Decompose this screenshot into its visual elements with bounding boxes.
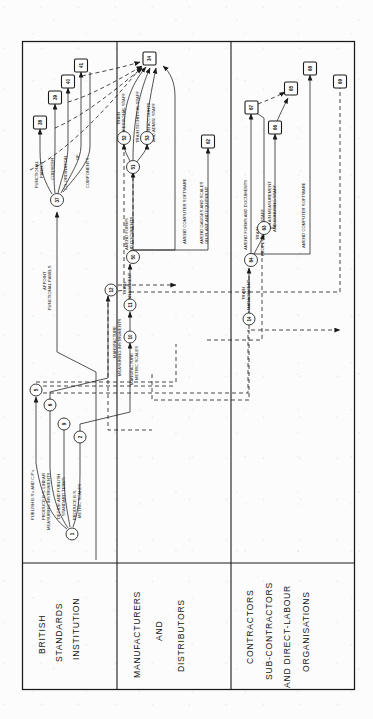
event-node-label: 1	[70, 532, 75, 535]
milestone-node-label: 41	[79, 63, 84, 69]
swimlane-label-bsi: BRITISH STANDARDS INSTITUTION	[37, 598, 81, 662]
activity-label-line: MANAGEMENT	[246, 279, 251, 310]
swimlane-label-line: BRITISH	[37, 615, 47, 654]
dummy-link-bottom-lane3	[152, 330, 249, 400]
swimlane-label-mfg: MANUFACTURERS AND DISTRIBUTORS	[132, 591, 186, 678]
swimlane-label-line: AND	[154, 621, 164, 641]
activity-label-line: STANDARD TERMS	[61, 477, 66, 516]
milestone-node-67[interactable]: 67	[245, 101, 258, 114]
event-node-label: 14	[247, 316, 252, 322]
milestone-node-39[interactable]: 39	[49, 91, 62, 104]
activity-label-a13: TRAIN MANAGEMENT	[122, 272, 132, 303]
activity-label-line: PANELS	[39, 161, 44, 178]
activity-label-a18: AMEND COMPUTER SOFTWARE	[182, 178, 187, 244]
event-node-52[interactable]: 52	[118, 132, 131, 145]
swimlane-label-line: AND DIRECT-LABOUR	[282, 585, 292, 688]
activity-arrow-a11	[50, 296, 108, 399]
activity-label-a6: CONSIDER	[50, 158, 55, 180]
activity-arrow-a19	[133, 148, 208, 250]
activity-label-a7: CO-ORDINATION	[63, 156, 68, 190]
milestone-node-65[interactable]: 65	[285, 82, 298, 95]
milestone-node-38[interactable]: 38	[34, 116, 47, 129]
activity-label-a14: AMEND FORMS AND DOCUMENTS	[124, 216, 134, 254]
event-node-12[interactable]: 12	[105, 284, 117, 296]
event-node-53[interactable]: 53	[141, 132, 154, 145]
milestone-node-66[interactable]: 66	[269, 121, 282, 134]
event-node-11[interactable]: 11	[124, 299, 136, 311]
milestone-node-label: 38	[38, 120, 43, 126]
activity-label-a5: FUNCTIONAL PANELS	[34, 160, 44, 188]
event-node-9[interactable]: 9	[58, 418, 70, 430]
event-node-label: 51	[131, 164, 136, 170]
swimlane-label-line: CONTRACTORS	[245, 590, 255, 664]
activity-label-line: MANAGEMENT	[127, 272, 132, 303]
event-node-label: 37	[55, 197, 60, 203]
event-node-37[interactable]: 37	[51, 194, 64, 207]
event-node-label: 6	[48, 403, 53, 406]
activity-label-a4: PRODUCE B.S. METRIC SCALES	[72, 484, 82, 520]
milestone-node-label: 62	[206, 139, 211, 145]
event-node-51[interactable]: 51	[127, 161, 140, 174]
activity-label-a12: MANUFACTURE METRIC SCALES	[129, 346, 139, 385]
activity-label-line: MEASURING INSTRUMENTS	[46, 472, 51, 530]
milestone-node-40[interactable]: 40	[62, 75, 75, 88]
milestone-node-label: 40	[66, 79, 71, 85]
milestone-node-label: 69	[338, 79, 343, 85]
event-node-label: 2	[78, 435, 83, 438]
event-node-label: 53	[145, 135, 150, 141]
event-node-14[interactable]: 14	[243, 313, 255, 325]
milestone-node-68[interactable]: 68	[304, 62, 317, 75]
dummy-link-to-34-d	[82, 62, 140, 76]
dummy-arrow-67-65	[258, 92, 285, 104]
network-diagram-canvas: BRITISH STANDARDS INSTITUTION MANUFACTUR…	[0, 0, 373, 719]
activity-label-line: FUNCTIONAL PANELS	[47, 265, 52, 310]
activity-label-line: ON PLANT AND EQUIPMENT	[204, 186, 209, 244]
milestone-node-62[interactable]: 62	[202, 135, 215, 148]
activity-label-line: PUBLISH B.S's AND C.P's	[30, 470, 35, 520]
activity-label-a16: TRAIN TECHNICAL STAFF	[135, 91, 140, 143]
milestone-node-label: 39	[53, 95, 58, 101]
activity-label-line: METRIC SCALES	[77, 484, 82, 518]
event-node-label: 50	[131, 254, 136, 260]
milestone-node-69[interactable]: 69	[334, 75, 347, 88]
event-node-label: 5	[34, 388, 39, 391]
event-node-10[interactable]: 10	[124, 331, 136, 343]
event-node-2[interactable]: 2	[74, 431, 86, 443]
swimlane-label-line: SUB-CONTRACTORS	[264, 582, 274, 680]
event-node-6[interactable]: 6	[44, 399, 56, 411]
activity-label-a11: MANUFACTURE MEASURING INSTRUMENTS	[112, 318, 122, 376]
activity-arrow-63-67	[255, 112, 264, 222]
diagram-page: BRITISH STANDARDS INSTITUTION MANUFACTUR…	[0, 0, 373, 719]
activity-arrow-51-53	[136, 144, 147, 163]
event-node-label: 10	[128, 334, 133, 340]
activity-arrow-a12	[80, 343, 130, 431]
event-node-5[interactable]: 5	[30, 384, 42, 396]
activity-label-a8: OF	[75, 154, 80, 160]
swimlane-label-line: ORGANISATIONS	[301, 591, 311, 672]
milestone-node-label: 66	[273, 125, 278, 131]
event-node-63[interactable]: 63	[258, 222, 271, 235]
activity-label-a19: AMEND GAUGES AND SCALES ON PLANT AND EQU…	[199, 181, 209, 244]
activity-label-a21: AMEND FORMS AND DOCUMENTS	[243, 180, 248, 250]
event-node-label: 9	[62, 422, 67, 425]
event-node-label: 64	[249, 257, 254, 263]
activity-arrow-51-52	[124, 144, 131, 163]
activity-label-a24: AMEND COMPUTER SOFTWARE	[301, 182, 306, 248]
swimlane-label-line: MANUFACTURERS	[132, 591, 142, 678]
activity-label-a9: COMPONENTS	[85, 158, 90, 188]
event-node-64[interactable]: 64	[245, 254, 258, 267]
activity-label-line: MEASURING INSTRUMENTS	[117, 318, 122, 376]
event-node-label: 63	[262, 225, 267, 231]
event-node-label: 12	[109, 287, 114, 293]
activity-label-a1: PUBLISH B.S's AND C.P's	[30, 470, 35, 520]
activity-label-a2: PRODUCE B.S. LINEAR MEASURING INSTRUMENT…	[41, 472, 51, 530]
event-node-50[interactable]: 50	[127, 251, 140, 264]
milestone-node-label: 67	[249, 105, 254, 111]
activity-label-line: AND BONUSING STAFF	[272, 185, 277, 232]
activity-label-a10: APPOINT FUNCTIONAL PANELS	[42, 265, 52, 310]
milestone-node-41[interactable]: 41	[75, 59, 88, 72]
milestone-node-label: 34	[147, 56, 152, 62]
swimlane-label-cont: CONTRACTORS SUB-CONTRACTORS AND DIRECT-L…	[245, 582, 311, 688]
event-node-1[interactable]: 1	[66, 528, 78, 540]
milestone-node-34[interactable]: 34	[143, 52, 156, 65]
